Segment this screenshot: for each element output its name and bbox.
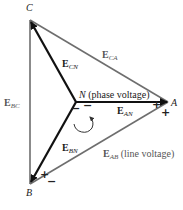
e-ab-sub: AB [110,153,119,161]
node-n-note: (phase voltage) [88,89,149,100]
e-ca-label: ECA [102,50,118,62]
e-an-main: E [117,105,124,116]
rotation-arrow-icon [74,117,93,132]
e-bn-label: EBN [62,143,78,155]
node-b-label: B [26,188,32,198]
e-an-label: EAN [117,106,133,118]
a-plus-upper-sign: + [152,99,161,110]
a-plus-lower-sign: + [161,107,170,118]
e-bn-sub: BN [69,147,78,155]
e-ab-label: EAB (line voltage) [103,149,174,161]
e-cn-label: ECN [62,59,78,71]
e-bc-label: EBC [4,98,20,110]
e-an-sub: AN [124,110,133,118]
e-ab-note: (line voltage) [121,148,175,159]
e-bn-main: E [62,142,69,153]
line-ab [30,102,168,184]
e-bc-main: E [4,97,11,108]
e-ab-main: E [103,148,110,159]
node-a-label: A [171,98,177,108]
n-minus-right-sign: − [83,100,92,111]
node-c-label: C [26,3,33,13]
e-cn-main: E [62,58,69,69]
e-ca-sub: CA [109,54,118,62]
e-bc-sub: BC [11,102,20,110]
e-ca-main: E [102,49,109,60]
b-minus-sign: − [47,176,56,187]
e-cn-sub: CN [69,63,78,71]
n-minus-left-sign: − [71,103,80,114]
